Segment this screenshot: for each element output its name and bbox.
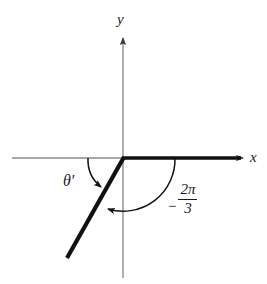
rotation-angle-label: − 2π 3 xyxy=(168,182,197,217)
coordinate-plane-svg xyxy=(0,0,267,284)
angle-figure: y x θ′ − 2π 3 xyxy=(0,0,267,284)
angle-numerator: 2π xyxy=(178,182,197,198)
reference-angle-arc xyxy=(88,158,101,187)
terminal-side-ray xyxy=(67,157,124,258)
angle-denominator: 3 xyxy=(184,201,192,217)
reference-angle-label: θ′ xyxy=(63,173,74,189)
angle-fraction: 2π 3 xyxy=(178,182,197,217)
x-axis-label: x xyxy=(250,150,257,165)
angle-minus-sign: − xyxy=(168,199,176,214)
y-axis-label: y xyxy=(117,12,124,27)
